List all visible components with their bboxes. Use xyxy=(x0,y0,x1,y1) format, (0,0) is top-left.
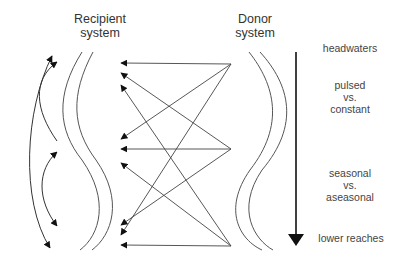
aseasonal-text: aseasonal xyxy=(310,192,390,204)
headwaters-text: headwaters xyxy=(310,43,390,55)
pulsed-text: pulsed xyxy=(310,80,390,92)
seasonal-vs-aseasonal-label: seasonal vs. aseasonal xyxy=(310,168,390,203)
seasonal-text: seasonal xyxy=(310,168,390,180)
lower-reaches-label: lower reaches xyxy=(308,233,394,245)
recipient-system-title: Recipient system xyxy=(60,12,140,40)
donor-title-line1: Donor xyxy=(215,12,295,26)
recipient-river-banks xyxy=(63,52,113,250)
headwaters-label: headwaters xyxy=(310,43,390,55)
recipient-internal-arrows xyxy=(30,56,57,248)
vs-text-2: vs. xyxy=(310,180,390,192)
lower-reaches-text: lower reaches xyxy=(308,233,394,245)
pulsed-vs-constant-label: pulsed vs. constant xyxy=(310,80,390,115)
constant-text: constant xyxy=(310,104,390,116)
recipient-title-line1: Recipient xyxy=(60,12,140,26)
donor-to-recipient-arrows xyxy=(121,63,231,246)
donor-title-line2: system xyxy=(215,26,295,40)
donor-system-title: Donor system xyxy=(215,12,295,40)
recipient-title-line2: system xyxy=(60,26,140,40)
donor-river-banks xyxy=(236,52,287,250)
downstream-gradient-arrow xyxy=(288,52,304,246)
vs-text-1: vs. xyxy=(310,92,390,104)
